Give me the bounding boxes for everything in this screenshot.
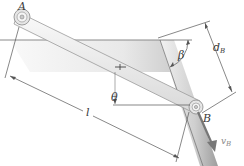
label-vB-sub: B xyxy=(226,140,231,148)
label-dB: dB xyxy=(213,42,225,55)
label-dB-sub: B xyxy=(220,47,225,55)
label-theta: θ xyxy=(111,92,118,103)
label-pin-b: B xyxy=(203,113,211,124)
label-pin-a: A xyxy=(18,1,26,12)
label-length-l: l xyxy=(86,107,90,118)
diagram-svg xyxy=(0,0,244,166)
pin-b xyxy=(189,100,203,114)
label-vB: vB xyxy=(221,137,231,148)
label-beta: β xyxy=(178,50,184,61)
label-dB-main: d xyxy=(213,41,220,54)
diagram-canvas: A B β θ l dB vB xyxy=(0,0,244,166)
